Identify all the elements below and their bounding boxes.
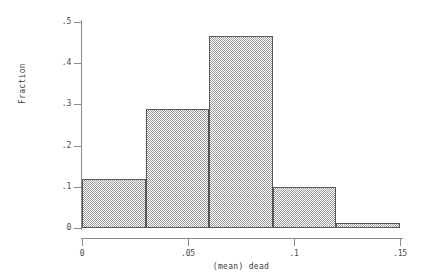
y-tick-mark bbox=[74, 187, 81, 188]
y-tick-mark bbox=[74, 146, 81, 147]
histogram-bar bbox=[336, 223, 400, 228]
y-tick-label: .1 bbox=[0, 183, 71, 191]
y-axis-title: Fraction bbox=[18, 63, 27, 104]
x-tick-mark bbox=[294, 239, 295, 246]
histogram-bar bbox=[273, 187, 337, 228]
y-tick-label: .5 bbox=[0, 18, 71, 26]
x-tick-mark bbox=[188, 239, 189, 246]
y-tick-label: .2 bbox=[0, 142, 71, 150]
x-tick-mark bbox=[400, 239, 401, 246]
histogram-bar bbox=[82, 179, 146, 228]
histogram-screenshot: Fraction 0.1.2.3.4.5 0.05.1.15 (mean) de… bbox=[0, 0, 421, 273]
plot-area bbox=[82, 22, 400, 228]
y-tick-mark bbox=[74, 228, 81, 229]
x-tick-label: 0 bbox=[62, 250, 102, 258]
y-tick-label: .3 bbox=[0, 100, 71, 108]
x-axis-line bbox=[81, 238, 403, 239]
histogram-bar bbox=[146, 109, 210, 228]
y-tick-mark bbox=[74, 104, 81, 105]
y-tick-mark bbox=[74, 63, 81, 64]
x-tick-label: .1 bbox=[274, 250, 314, 258]
y-tick-mark bbox=[74, 22, 81, 23]
x-tick-label: .05 bbox=[168, 250, 208, 258]
y-tick-label: .4 bbox=[0, 59, 71, 67]
x-tick-mark bbox=[82, 239, 83, 246]
y-tick-label: 0 bbox=[0, 224, 71, 232]
x-axis-title: (mean) dead bbox=[82, 262, 400, 271]
histogram-bar bbox=[209, 36, 273, 228]
x-tick-label: .15 bbox=[380, 250, 420, 258]
